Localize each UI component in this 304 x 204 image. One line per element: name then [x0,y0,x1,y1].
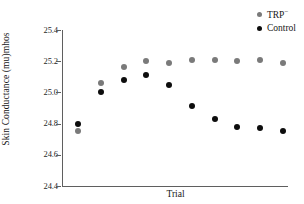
data-point [98,80,104,86]
x-axis-title: Trial [63,189,288,199]
legend-item: Control [257,21,296,35]
data-point [75,128,81,134]
y-axis-tick-mark [56,186,61,187]
data-point [212,57,218,63]
data-point [280,60,286,66]
data-point [234,124,240,130]
data-point [280,128,286,134]
y-axis-tick-mark [56,30,61,31]
legend-label: TRP− [267,6,288,22]
data-point [98,89,104,95]
y-axis-tick-mark [56,155,61,156]
chart-legend: TRP−Control [257,7,296,35]
y-axis-tick-labels: 25.425.225.024.824.624.4 [0,0,58,157]
legend-marker-icon [257,12,262,17]
data-point [166,82,172,88]
data-point [257,125,263,131]
data-point [121,64,127,70]
legend-item: TRP− [257,7,296,21]
y-axis-tick-mark [56,92,61,93]
x-axis-line [62,186,288,187]
y-axis-tick-mark [56,124,61,125]
data-point [189,103,195,109]
data-point [212,116,218,122]
data-point [234,58,240,64]
legend-label-superscript: − [284,8,288,16]
plot-area [63,30,288,186]
data-point [121,77,127,83]
data-point [189,57,195,63]
data-point [257,57,263,63]
data-point [75,121,81,127]
legend-label: Control [267,22,296,35]
data-point [143,72,149,78]
skin-conductance-scatter-chart: Skin Conductance (mu)mhos 25.425.225.024… [0,0,304,204]
data-point [166,60,172,66]
y-axis-tick-mark [56,61,61,62]
data-point [143,58,149,64]
legend-marker-icon [257,26,262,31]
